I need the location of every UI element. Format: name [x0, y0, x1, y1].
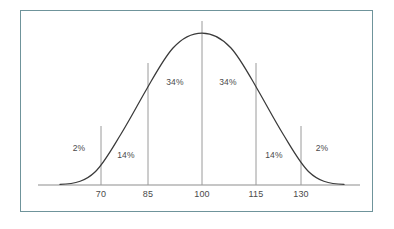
axis-tick-label-115: 115 — [249, 190, 264, 199]
percent-label-left-tail: 2% — [73, 144, 86, 153]
percent-label-right-tail: 2% — [316, 144, 329, 153]
percent-label-right-34: 34% — [219, 78, 237, 87]
axis-tick-label-85: 85 — [143, 190, 153, 199]
axis-tick-label-70: 70 — [96, 190, 106, 199]
axis-tick-label-130: 130 — [293, 190, 309, 199]
bell-curve-figure: 70 85 100 115 130 2% 14% 34% 34% 14% 2% — [0, 0, 394, 229]
axis-tick-label-100: 100 — [194, 190, 210, 199]
percent-label-right-14: 14% — [265, 151, 283, 160]
percent-label-left-14: 14% — [117, 151, 135, 160]
percent-label-left-34: 34% — [166, 78, 184, 87]
